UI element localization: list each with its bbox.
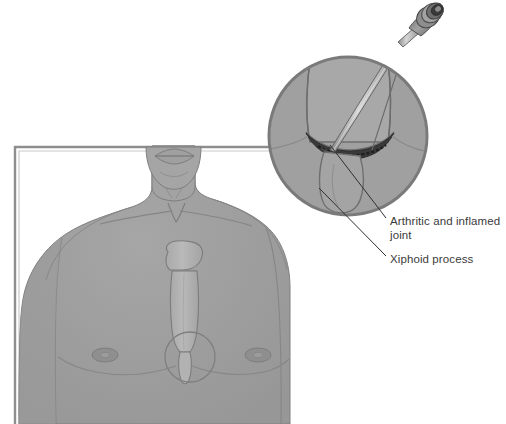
label-arthritic-joint: Arthritic and inflamed joint: [390, 214, 502, 242]
label-xiphoid-process: Xiphoid process: [390, 252, 502, 266]
nipple-right: [245, 348, 271, 362]
medical-illustration-figure: Arthritic and inflamed joint Xiphoid pro…: [0, 0, 506, 424]
magnified-inset: [266, 44, 430, 218]
syringe-hub: [398, 0, 447, 47]
sternum-body: [171, 271, 199, 352]
manubrium: [166, 241, 203, 270]
inset-xiphoid-process: [320, 152, 364, 213]
xiphoid-process: [179, 352, 192, 384]
illustration-canvas: [0, 0, 506, 424]
torso-figure: [19, 146, 290, 424]
nipple-left: [92, 348, 118, 362]
